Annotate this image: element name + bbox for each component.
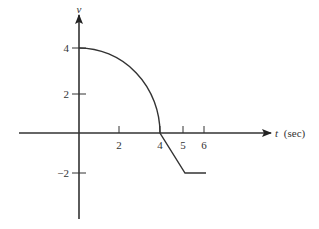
x-axis-label-var: t	[275, 127, 279, 139]
x-tick-label-5: 5	[180, 139, 186, 151]
velocity-curve	[79, 48, 206, 173]
x-tick-label-4: 4	[157, 139, 163, 151]
x-axis-label: t (sec)	[275, 127, 306, 140]
velocity-chart: 2 4 5 6 4 2 −2 v t (sec)	[0, 0, 319, 229]
x-axis-label-unit: (sec)	[284, 127, 306, 140]
y-axis-label: v	[77, 3, 82, 15]
x-ticks	[119, 126, 204, 133]
y-tick-label-4: 4	[64, 42, 70, 54]
x-tick-label-2: 2	[116, 139, 122, 151]
y-tick-label-2: 2	[64, 88, 70, 100]
x-tick-label-6: 6	[201, 139, 207, 151]
y-tick-label-neg2: −2	[57, 167, 69, 179]
